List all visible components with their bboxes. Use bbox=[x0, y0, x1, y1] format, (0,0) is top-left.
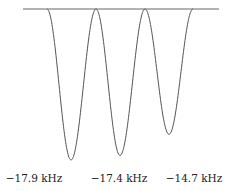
tick-label-1: −17.9 kHz bbox=[6, 172, 63, 184]
spectrum-plot bbox=[0, 0, 227, 191]
tick-label-3: −14.7 kHz bbox=[166, 172, 223, 184]
tick-label-2: −17.4 kHz bbox=[91, 172, 148, 184]
spectrum-curve bbox=[47, 9, 193, 160]
